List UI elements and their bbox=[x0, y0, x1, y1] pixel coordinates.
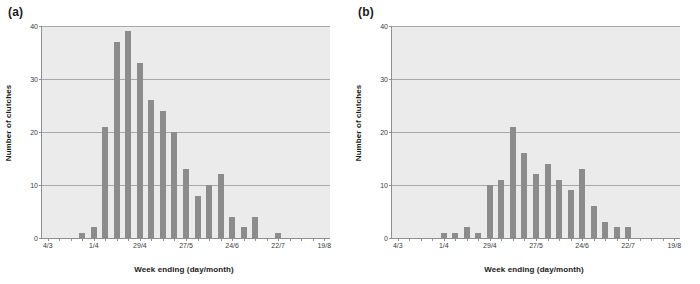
x-axis-title-b: Week ending (day/month) bbox=[350, 265, 700, 274]
x-tick-mark bbox=[221, 238, 222, 241]
panel-label-b: (b) bbox=[358, 5, 374, 19]
x-tick-mark bbox=[478, 238, 479, 241]
x-tick-mark bbox=[209, 238, 210, 241]
y-tick-label: 30 bbox=[380, 76, 388, 83]
x-tick-mark bbox=[232, 238, 233, 241]
x-tick-mark bbox=[174, 238, 175, 241]
x-tick-mark bbox=[163, 238, 164, 241]
y-tick-mark bbox=[39, 26, 42, 27]
x-tick-mark bbox=[140, 238, 141, 241]
x-axis-title-text-a: Week ending (day/month) bbox=[134, 265, 234, 274]
bar bbox=[229, 217, 235, 238]
bar bbox=[91, 227, 97, 238]
bar bbox=[614, 227, 620, 238]
x-axis-ticks-b: 4/31/429/427/524/622/719/8 bbox=[392, 238, 680, 256]
bar bbox=[137, 63, 143, 238]
y-tick-mark bbox=[39, 185, 42, 186]
bar bbox=[195, 196, 201, 238]
x-tick-mark bbox=[640, 238, 641, 241]
x-tick-mark bbox=[501, 238, 502, 241]
bar bbox=[148, 100, 154, 238]
bar bbox=[464, 227, 470, 238]
y-tick-label: 40 bbox=[30, 23, 38, 30]
figure-two-panel-histograms: (a) Number of clutches 4/31/429/427/524/… bbox=[0, 0, 700, 284]
bar bbox=[241, 227, 247, 238]
x-tick-mark bbox=[151, 238, 152, 241]
x-tick-mark bbox=[663, 238, 664, 241]
x-tick-label: 29/4 bbox=[133, 242, 147, 249]
x-tick-mark bbox=[105, 238, 106, 241]
x-tick-mark bbox=[513, 238, 514, 241]
bar bbox=[498, 180, 504, 238]
x-tick-mark bbox=[409, 238, 410, 241]
plot-area-b: 4/31/429/427/524/622/719/8 010203040 bbox=[392, 26, 680, 238]
x-tick-label: 1/4 bbox=[439, 242, 449, 249]
x-tick-mark bbox=[674, 238, 675, 241]
y-tick-label: 0 bbox=[384, 235, 388, 242]
y-axis-title-a: Number of clutches bbox=[4, 48, 13, 198]
y-tick-mark bbox=[389, 185, 392, 186]
x-tick-mark bbox=[198, 238, 199, 241]
x-tick-label: 29/4 bbox=[483, 242, 497, 249]
bar bbox=[545, 164, 551, 238]
x-tick-mark bbox=[455, 238, 456, 241]
x-tick-mark bbox=[559, 238, 560, 241]
x-tick-mark bbox=[128, 238, 129, 241]
y-tick-label: 40 bbox=[380, 23, 388, 30]
bar bbox=[510, 127, 516, 238]
panel-b: (b) Number of clutches 4/31/429/427/524/… bbox=[350, 0, 700, 284]
x-tick-label: 27/5 bbox=[179, 242, 193, 249]
y-tick-mark bbox=[39, 238, 42, 239]
x-tick-mark bbox=[605, 238, 606, 241]
bar bbox=[602, 222, 608, 238]
y-tick-mark bbox=[39, 132, 42, 133]
x-tick-mark bbox=[444, 238, 445, 241]
x-tick-mark bbox=[117, 238, 118, 241]
x-tick-mark bbox=[398, 238, 399, 241]
bars-container-a bbox=[42, 26, 330, 238]
x-tick-mark bbox=[524, 238, 525, 241]
bar bbox=[521, 153, 527, 238]
bar bbox=[591, 206, 597, 238]
x-tick-mark bbox=[651, 238, 652, 241]
x-tick-mark bbox=[255, 238, 256, 241]
x-tick-mark bbox=[301, 238, 302, 241]
x-tick-label: 22/7 bbox=[271, 242, 285, 249]
y-tick-mark bbox=[389, 26, 392, 27]
x-tick-mark bbox=[71, 238, 72, 241]
panel-label-a: (a) bbox=[8, 5, 23, 19]
y-tick-mark bbox=[389, 79, 392, 80]
x-tick-label: 22/7 bbox=[621, 242, 635, 249]
x-axis-title-text-b: Week ending (day/month) bbox=[484, 265, 584, 274]
x-tick-mark bbox=[628, 238, 629, 241]
x-tick-mark bbox=[48, 238, 49, 241]
y-tick-label: 30 bbox=[30, 76, 38, 83]
x-tick-label: 24/6 bbox=[575, 242, 589, 249]
y-tick-mark bbox=[39, 79, 42, 80]
y-tick-label: 20 bbox=[380, 129, 388, 136]
x-tick-mark bbox=[467, 238, 468, 241]
x-tick-label: 4/3 bbox=[43, 242, 53, 249]
x-tick-mark bbox=[571, 238, 572, 241]
bar bbox=[625, 227, 631, 238]
x-tick-label: 27/5 bbox=[529, 242, 543, 249]
x-tick-mark bbox=[278, 238, 279, 241]
bar bbox=[102, 127, 108, 238]
x-tick-mark bbox=[244, 238, 245, 241]
x-tick-label: 4/3 bbox=[393, 242, 403, 249]
panel-a: (a) Number of clutches 4/31/429/427/524/… bbox=[0, 0, 350, 284]
x-tick-mark bbox=[313, 238, 314, 241]
bar bbox=[252, 217, 258, 238]
x-tick-mark bbox=[94, 238, 95, 241]
x-tick-mark bbox=[186, 238, 187, 241]
bar bbox=[206, 185, 212, 238]
bars-container-b bbox=[392, 26, 680, 238]
y-tick-label: 10 bbox=[30, 182, 38, 189]
x-tick-mark bbox=[82, 238, 83, 241]
x-tick-mark bbox=[432, 238, 433, 241]
bar bbox=[533, 174, 539, 238]
x-tick-mark bbox=[59, 238, 60, 241]
bar bbox=[579, 169, 585, 238]
x-tick-label: 24/6 bbox=[225, 242, 239, 249]
x-tick-mark bbox=[548, 238, 549, 241]
